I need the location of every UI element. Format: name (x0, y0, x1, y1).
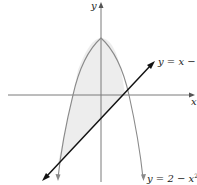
parabola-left-arrow-icon (56, 174, 61, 181)
y-axis-label: y (91, 1, 97, 11)
parabola-equation-label: y = 2 − x2 (147, 173, 197, 184)
parabola-exponent: 2 (194, 172, 197, 179)
parabola-right-arrow-icon (141, 174, 146, 181)
line-equation-label: y = x − 2 (158, 57, 197, 67)
x-axis-label: x (191, 97, 197, 107)
parabola-equation-text: y = 2 − x (147, 173, 194, 184)
y-axis-arrow-icon (99, 2, 104, 8)
graph-canvas (0, 0, 197, 185)
line-equation-text: y = x − 2 (158, 56, 197, 67)
